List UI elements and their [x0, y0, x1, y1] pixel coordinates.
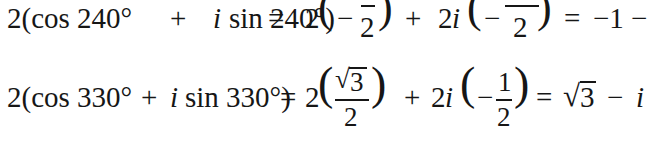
- eq1-equals-sign: =: [268, 4, 284, 33]
- eq1-equals2: =: [564, 4, 580, 33]
- eq1-term1-sign: −: [337, 4, 353, 33]
- eq1-term2-lparen: (: [467, 0, 482, 30]
- eq2-result-minus: −: [607, 83, 623, 112]
- eq2-term1-frac-bar: [335, 99, 369, 101]
- eq1-term2-sign: −: [484, 4, 500, 33]
- eq2-term1-lparen: (: [318, 61, 333, 107]
- eq2-lhs-sin: sin 330°): [185, 83, 291, 112]
- eq1-term2-coeff: 2: [438, 4, 453, 33]
- eq2-equals2: =: [536, 83, 552, 112]
- eq2-term2-den: 2: [497, 104, 511, 131]
- eq2-result-val: 3: [580, 83, 595, 112]
- eq1-term1-frac-bar: [361, 5, 375, 7]
- eq2-term1-rparen: ): [371, 61, 386, 107]
- eq1-result: −1 −: [593, 4, 647, 33]
- eq1-term2-unit: i: [452, 4, 460, 33]
- eq1-lhs-cos: 2(cos 240°: [7, 4, 132, 33]
- eq2-result-unit: i: [636, 83, 644, 112]
- eq2-op-plus: +: [404, 83, 420, 112]
- eq1-plus: +: [170, 4, 186, 33]
- eq2-term2-coeff: 2: [431, 83, 446, 112]
- eq2-equals-sign: =: [280, 83, 296, 112]
- eq2-plus: +: [141, 83, 157, 112]
- eq2-lhs-cos: 2(cos 330°: [7, 83, 132, 112]
- eq1-term1-den: 2: [360, 13, 375, 42]
- eq2-term2-num: 1: [498, 69, 512, 96]
- eq2-imag-unit: i: [170, 83, 178, 112]
- eq2-term1-num-val: 3: [350, 69, 364, 96]
- eq2-result-root: √: [563, 80, 580, 111]
- eq2-term2-unit: i: [445, 83, 453, 112]
- eq1-term1-lparen: (: [318, 0, 333, 30]
- eq2-term2-frac-bar: [496, 99, 512, 101]
- eq1-term2-den: 2: [513, 13, 528, 42]
- eq1-imag-unit: i: [213, 4, 221, 33]
- eq2-term1-num-root: √: [335, 66, 350, 93]
- eq2-term2-sign: −: [477, 83, 493, 112]
- eq1-term1-rparen: ): [378, 0, 393, 30]
- eq2-term2-lparen: (: [460, 61, 475, 107]
- eq1-term2-rparen: ): [537, 0, 552, 30]
- eq1-op-plus: +: [405, 4, 421, 33]
- eq2-term1-den: 2: [344, 104, 358, 131]
- eq1-term2-frac-bar: [505, 5, 539, 7]
- eq2-term2-rparen: ): [514, 61, 529, 107]
